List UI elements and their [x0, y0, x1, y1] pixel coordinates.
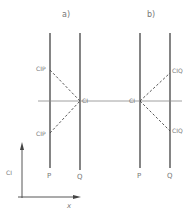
center-point-label-b: CI — [129, 97, 135, 104]
y-axis-label: CI — [6, 169, 12, 176]
upper-point-label-a: CIP — [36, 65, 46, 72]
label-p-a: P — [47, 172, 51, 180]
panel-b: b) CIQ CIQ CI P Q — [97, 10, 183, 180]
y-axis-arrow-icon — [20, 142, 24, 150]
lower-point-label-b: CIQ — [172, 127, 183, 134]
lower-dashed-b — [140, 101, 170, 131]
label-q-a: Q — [77, 173, 83, 181]
panel-a: a) CIP CIP CI P Q — [36, 10, 97, 181]
label-p-b: P — [137, 172, 141, 180]
x-axis-arrow-icon — [73, 195, 81, 199]
x-axis-label: x — [66, 202, 72, 210]
lower-point-label-a: CIP — [36, 130, 46, 137]
label-q-b: Q — [167, 172, 173, 180]
diagram-canvas: a) CIP CIP CI P Q b) CIQ CIQ CI P Q CI x — [0, 0, 192, 219]
lower-dashed-a — [50, 101, 80, 133]
reference-axes: CI x — [6, 142, 81, 210]
upper-dashed-a — [50, 70, 80, 101]
upper-point-label-b: CIQ — [172, 67, 183, 74]
center-point-label-a: CI — [82, 97, 88, 104]
upper-dashed-b — [140, 73, 170, 101]
panel-a-title: a) — [62, 10, 70, 19]
panel-b-title: b) — [147, 10, 155, 19]
